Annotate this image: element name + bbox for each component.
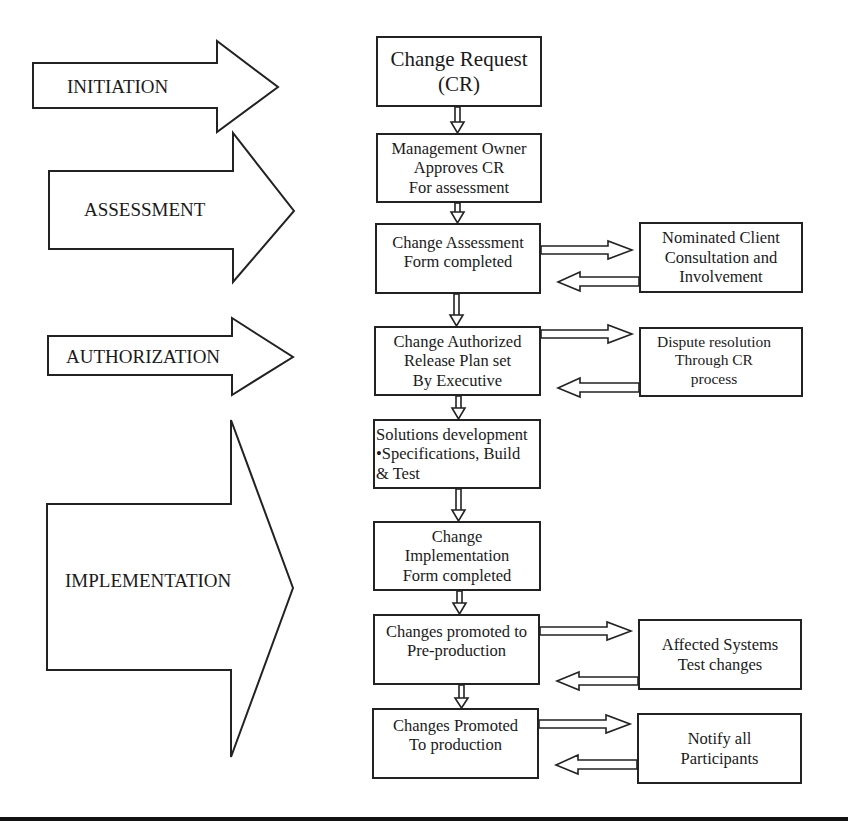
arrow-left-icon [558,272,639,291]
step-change-implementation: Change Implementation Form completed [373,521,541,591]
arrow-left-icon [556,755,637,774]
step-text: For assessment [409,178,509,197]
step-text: Form completed [404,252,513,271]
arrow-right-icon [541,325,632,343]
phase-label-authorization: AUTHORIZATION [66,346,220,368]
arrow-right-icon [541,241,632,259]
side-step-text: Participants [681,749,759,768]
side-step-text: Consultation and [665,248,777,267]
step-change-authorized: Change Authorized Release Plan set By Ex… [374,326,541,396]
step-text: Pre-production [407,641,506,660]
side-step-client-consultation: Nominated Client Consultation and Involv… [639,222,803,293]
arrow-right-icon [539,715,630,733]
arrow-right-icon [540,622,631,640]
bottom-divider [0,817,848,821]
flow-arrow-down-icon [453,591,466,614]
step-text: & Test [376,464,420,483]
step-text: Change Request [390,47,527,72]
step-text: Change Assessment [392,233,524,252]
step-text: By Executive [413,371,502,390]
phase-label-assessment: ASSESSMENT [84,199,205,221]
step-production: Changes Promoted To production [372,708,539,779]
side-step-text: process [691,370,738,388]
step-text: Form completed [403,566,512,585]
step-solutions-development: Solutions development •Specifications, B… [373,419,541,489]
side-step-dispute-resolution: Dispute resolution Through CR process [639,327,803,397]
step-text: Solutions development [376,425,528,444]
step-text: (CR) [438,72,480,97]
flow-arrow-down-icon [450,294,463,326]
step-text: Implementation [405,546,509,565]
flow-arrow-down-icon [451,107,464,133]
step-text: To production [409,735,502,754]
step-text: Release Plan set [404,351,511,370]
arrow-left-icon [557,672,638,690]
flow-arrow-down-icon [452,396,465,419]
step-management-approval: Management Owner Approves CR For assessm… [376,133,542,203]
flow-arrow-down-icon [452,489,465,521]
arrow-left-icon [558,378,639,397]
side-step-text: Affected Systems [662,635,779,654]
step-change-assessment: Change Assessment Form completed [375,223,541,294]
side-step-text: Through CR [675,351,753,369]
side-step-text: Involvement [679,267,762,286]
step-pre-production: Changes promoted to Pre-production [373,614,540,685]
flow-arrow-down-icon [451,203,464,223]
side-step-text: Test changes [678,655,763,674]
step-text: Management Owner [391,139,526,158]
phase-label-implementation: IMPLEMENTATION [65,570,231,592]
step-text: Approves CR [414,158,504,177]
side-step-affected-systems: Affected Systems Test changes [638,619,802,690]
step-text: Changes promoted to [386,622,527,641]
step-text: Changes Promoted [393,716,518,735]
phase-label-initiation: INITIATION [67,76,168,98]
flow-arrow-down-icon [455,685,468,708]
side-step-notify-participants: Notify all Participants [637,713,802,784]
side-step-text: Nominated Client [662,228,780,247]
step-change-request: Change Request (CR) [376,36,542,107]
step-text: •Specifications, Build [376,444,520,463]
side-step-text: Dispute resolution [657,333,771,351]
side-step-text: Notify all [688,729,752,748]
step-text: Change Authorized [394,332,522,351]
step-text: Change [432,527,482,546]
